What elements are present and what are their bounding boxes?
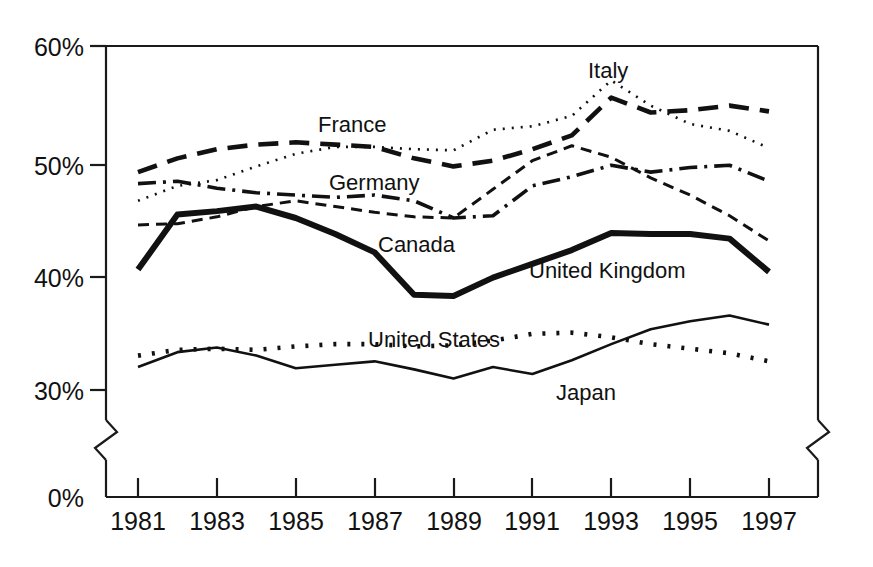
series-label-france: France — [318, 112, 386, 137]
series-label-japan: Japan — [556, 380, 616, 405]
series-label-united-states: United States — [368, 327, 500, 352]
series-line-italy — [138, 80, 769, 200]
series-line-canada — [138, 146, 769, 241]
x-axis-label-1995: 1995 — [662, 507, 718, 535]
axis-break-left-icon — [95, 420, 117, 460]
series-label-germany: Germany — [329, 170, 419, 195]
x-axis-label-1985: 1985 — [268, 507, 324, 535]
y-axis-labels: 60% 50% 40% 30% 0% — [34, 33, 84, 512]
x-axis-labels: 1981 1983 1985 1987 1989 1991 1993 1995 … — [110, 507, 797, 535]
chart-frame — [95, 46, 829, 497]
x-axis-label-1987: 1987 — [347, 507, 403, 535]
x-axis-label-1983: 1983 — [189, 507, 245, 535]
series-label-united-kingdom: United Kingdom — [529, 258, 686, 283]
chart-container: 60% 50% 40% 30% 0% 1981 1983 1985 1987 1… — [0, 0, 873, 567]
y-axis-label-50: 50% — [34, 152, 84, 180]
x-axis-ticks — [138, 478, 769, 497]
series-line-france — [138, 98, 769, 173]
y-axis-label-30: 30% — [34, 377, 84, 405]
x-axis-label-1989: 1989 — [426, 507, 482, 535]
series-label-canada: Canada — [378, 232, 456, 257]
x-axis-label-1993: 1993 — [583, 507, 639, 535]
x-axis-label-1997: 1997 — [741, 507, 797, 535]
line-chart: 60% 50% 40% 30% 0% 1981 1983 1985 1987 1… — [0, 0, 873, 567]
y-axis-ticks — [90, 46, 106, 390]
axis-break-right-icon — [807, 420, 829, 460]
x-axis-label-1991: 1991 — [504, 507, 560, 535]
y-axis-label-0: 0% — [48, 484, 84, 512]
x-axis-label-1981: 1981 — [110, 507, 166, 535]
series-label-italy: Italy — [588, 58, 628, 83]
y-axis-label-60: 60% — [34, 33, 84, 61]
y-axis-label-40: 40% — [34, 264, 84, 292]
